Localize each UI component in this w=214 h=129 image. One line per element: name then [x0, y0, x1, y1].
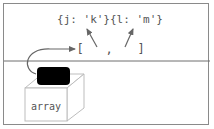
arrow-slot1-to-object2	[125, 29, 133, 47]
arrow-slot0-to-object1	[87, 29, 97, 47]
objects-label: {j: 'k'}{l: 'm'}	[57, 13, 163, 26]
cube-label: array	[31, 101, 61, 112]
array-close-bracket: ]	[137, 42, 144, 56]
diagram-canvas: {j: 'k'}{l: 'm'} [ , ] array	[0, 0, 214, 129]
array-comma: ,	[105, 42, 112, 56]
array-open-bracket: [	[76, 42, 83, 56]
variable-value-block	[37, 67, 70, 85]
